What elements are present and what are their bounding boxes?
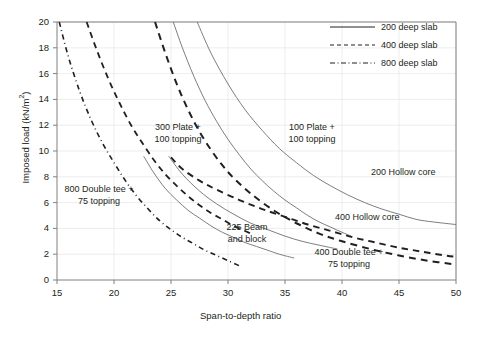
x-tick-label: 45 <box>384 287 414 298</box>
x-tick-label: 50 <box>441 287 471 298</box>
x-tick-label: 20 <box>99 287 129 298</box>
x-axis-title: Span-to-depth ratio <box>200 310 281 321</box>
x-tick-label: 15 <box>42 287 72 298</box>
y-tick-label: 2 <box>27 248 49 259</box>
legend-sample-lines <box>330 27 375 63</box>
curve-label-400-hollow-core: 400 Hollow core <box>335 212 400 224</box>
y-tick-label: 0 <box>27 274 49 285</box>
legend-label-400-deep-slab: 400 deep slab <box>381 40 438 50</box>
curve-label-400-double-tee: 400 Double tee +75 topping <box>297 247 401 270</box>
y-tick-label: 6 <box>27 197 49 208</box>
y-axis-title: Imposed load (kN/m2) <box>20 73 31 203</box>
x-tick-label: 35 <box>270 287 300 298</box>
y-tick-label: 20 <box>27 16 49 27</box>
x-tick-label: 25 <box>156 287 186 298</box>
curve-label-800-double-tee: 800 Double tee +75 topping <box>47 184 151 207</box>
legend-label-800-deep-slab: 800 deep slab <box>381 58 438 68</box>
curve-label-200-hollow-core: 200 Hollow core <box>371 167 436 179</box>
chart-figure: Imposed load (kN/m2) Span-to-depth ratio… <box>0 0 495 337</box>
y-tick-label: 18 <box>27 42 49 53</box>
y-tick-label: 12 <box>27 119 49 130</box>
y-tick-label: 14 <box>27 93 49 104</box>
y-tick-label: 4 <box>27 222 49 233</box>
y-tick-label: 8 <box>27 171 49 182</box>
x-tick-label: 40 <box>327 287 357 298</box>
curve-label-300-plate: 300 Plate +100 topping <box>141 122 215 145</box>
x-tick-label: 30 <box>213 287 243 298</box>
y-tick-label: 16 <box>27 68 49 79</box>
legend-label-200-deep-slab: 200 deep slab <box>381 22 438 32</box>
curve-label-100-plate: 100 Plate +100 topping <box>275 122 349 145</box>
curve-label-225-beam-block: 225 Beamand block <box>216 222 278 245</box>
y-tick-label: 10 <box>27 145 49 156</box>
